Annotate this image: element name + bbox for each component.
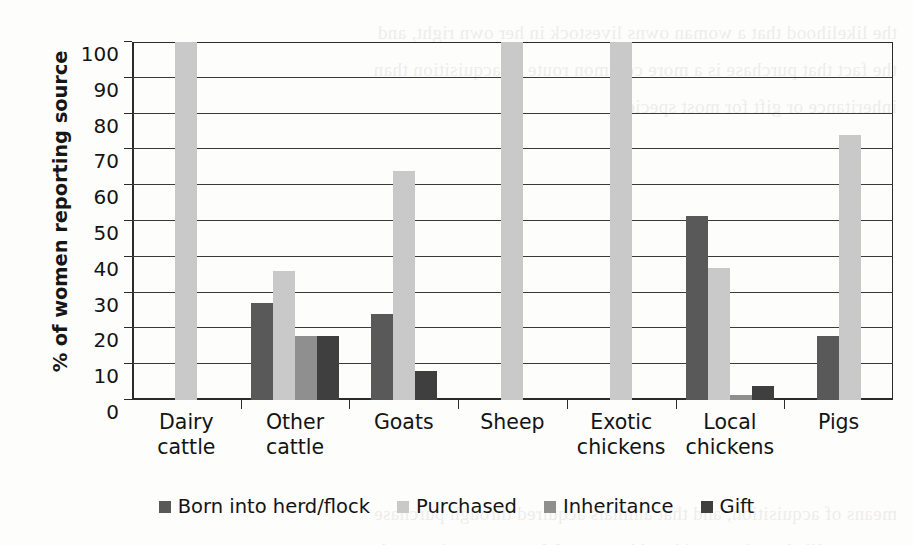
x-axis-tick [676,400,677,409]
x-axis-category-label-line: chickens [676,435,785,460]
x-axis-category-label-line: chickens [567,435,676,460]
legend-item: Gift [701,495,755,518]
x-axis-category-label-line: Other [241,410,350,435]
x-axis-category-label-line: Sheep [458,410,567,435]
y-axis-tick [124,292,132,293]
x-axis-category-label-line: Pigs [784,410,893,435]
bar [708,268,730,400]
y-axis-title: % of women reporting source [49,22,72,402]
legend-item: Inheritance [544,495,674,518]
bar [251,303,273,400]
y-axis-tick [124,148,132,149]
bar-group [567,42,676,400]
bar-group [349,42,458,400]
y-axis-tick [124,220,132,221]
bar [752,386,774,400]
x-axis-category-label-line: Exotic [567,410,676,435]
bar [610,42,632,400]
x-axis-tick [567,400,568,409]
x-axis-category-label: Sheep [458,410,567,435]
bar [273,271,295,400]
bar-group [458,42,567,400]
bar [393,171,415,400]
legend-label: Gift [720,495,755,518]
legend-label: Inheritance [563,495,674,518]
x-axis-category-label-line: cattle [132,435,241,460]
bar-group [132,42,241,400]
plot-area: 0102030405060708090100 [132,42,893,400]
legend-item: Born into herd/flock [159,495,370,518]
bar-group [784,42,893,400]
legend-label: Purchased [416,495,517,518]
bar [817,336,839,400]
bar [839,135,861,400]
x-axis-category-label-line: Dairy [132,410,241,435]
legend-label: Born into herd/flock [178,495,370,518]
bar [730,395,752,400]
y-axis-tick [124,399,132,400]
bar [371,314,393,400]
x-axis-category-label: Goats [349,410,458,435]
legend-swatch-icon [159,501,171,513]
bar-group [676,42,785,400]
y-axis-tick [124,41,132,42]
bar [295,336,317,400]
x-axis-tick [241,400,242,409]
y-axis-tick [124,327,132,328]
bar [317,336,339,400]
bar [501,42,523,400]
x-axis-tick [784,400,785,409]
x-axis-tick [349,400,350,409]
legend-swatch-icon [397,501,409,513]
y-axis-tick [124,363,132,364]
x-axis-category-label: Exoticchickens [567,410,676,460]
y-axis-tick [124,184,132,185]
x-axis-category-label: Othercattle [241,410,350,460]
bar [175,42,197,400]
legend-item: Purchased [397,495,517,518]
bar [415,371,437,400]
y-axis-tick [124,77,132,78]
x-axis-category-label-line: Local [676,410,785,435]
y-axis-tick [124,113,132,114]
bar-chart: % of women reporting source 010203040506… [0,0,913,545]
y-axis-tick [124,256,132,257]
x-axis-category-label: Pigs [784,410,893,435]
x-axis-tick [458,400,459,409]
x-axis-category-label: Localchickens [676,410,785,460]
x-axis-category-label: Dairycattle [132,410,241,460]
legend-swatch-icon [544,501,556,513]
bar [686,216,708,400]
bar-group [241,42,350,400]
legend-swatch-icon [701,501,713,513]
x-axis-category-label-line: cattle [241,435,350,460]
chart-legend: Born into herd/flockPurchasedInheritance… [0,495,913,518]
x-axis-category-label-line: Goats [349,410,458,435]
